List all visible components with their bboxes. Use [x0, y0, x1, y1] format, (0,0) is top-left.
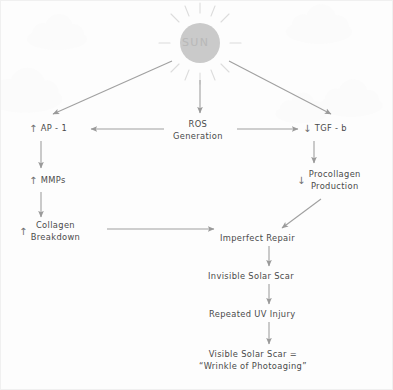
node-ros-generation: ROS Generation [173, 119, 223, 142]
edge-procollagen-to-repair [282, 199, 321, 228]
edges-layer [1, 1, 393, 390]
sun-label: SUN [182, 36, 209, 49]
node-tgf-b-label: TGF - b [315, 123, 347, 135]
increase-arrow-icon: ↑ [29, 124, 38, 134]
node-collagen-breakdown: ↑ Collagen Breakdown [19, 220, 80, 243]
decrease-arrow-icon: ↓ [303, 124, 312, 134]
edge-sun-to-ap1 [53, 61, 172, 114]
increase-arrow-icon: ↑ [19, 227, 28, 237]
node-procollagen-production: ↓ Procollagen Production [297, 169, 361, 192]
decrease-arrow-icon: ↓ [297, 176, 306, 186]
edge-sun-to-tgfb [229, 61, 331, 114]
node-imperfect-repair: Imperfect Repair [220, 233, 295, 245]
node-tgf-b: ↓ TGF - b [303, 123, 347, 135]
diagram-canvas: SUN ↑ AP - 1 [0, 0, 393, 390]
node-collagen-breakdown-label: Collagen Breakdown [31, 220, 80, 243]
node-procollagen-production-label: Procollagen Production [309, 169, 361, 192]
increase-arrow-icon: ↑ [29, 176, 38, 186]
node-mmps: ↑ MMPs [29, 175, 66, 187]
node-mmps-label: MMPs [41, 175, 66, 187]
node-ap-1-label: AP - 1 [41, 123, 67, 135]
node-invisible-solar-scar: Invisible Solar Scar [208, 271, 294, 283]
node-repeated-uv-injury: Repeated UV Injury [209, 309, 296, 321]
node-ap-1: ↑ AP - 1 [29, 123, 67, 135]
node-visible-solar-scar: Visible Solar Scar = “Wrinkle of Photoag… [199, 349, 307, 372]
